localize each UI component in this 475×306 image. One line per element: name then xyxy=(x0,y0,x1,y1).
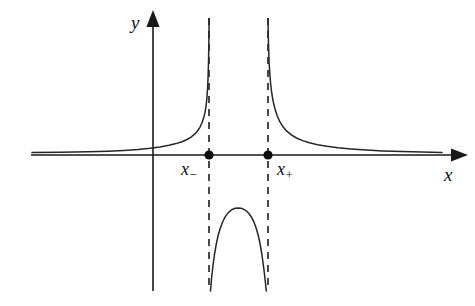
curve-left-branch xyxy=(32,19,209,153)
x-axis-label: x xyxy=(444,165,452,184)
x-minus-root-dot xyxy=(204,150,213,159)
x-plus-root-dot xyxy=(263,150,272,159)
x-plus-label: x+ xyxy=(277,160,293,181)
arrow-right-icon xyxy=(451,149,468,162)
x-minus-label: x− xyxy=(181,160,197,181)
x-plus-label-subscript: + xyxy=(285,167,293,182)
plot-canvas xyxy=(0,0,475,306)
curve-right-branch xyxy=(268,19,442,153)
y-axis-label: y xyxy=(131,13,139,32)
x-plus-label-base: x xyxy=(277,159,285,179)
x-minus-label-subscript: − xyxy=(189,167,197,182)
math-figure: y x x− x+ xyxy=(0,0,475,306)
arrow-up-icon xyxy=(146,10,159,27)
x-minus-label-base: x xyxy=(181,159,189,179)
curve-middle-branch xyxy=(211,208,267,291)
